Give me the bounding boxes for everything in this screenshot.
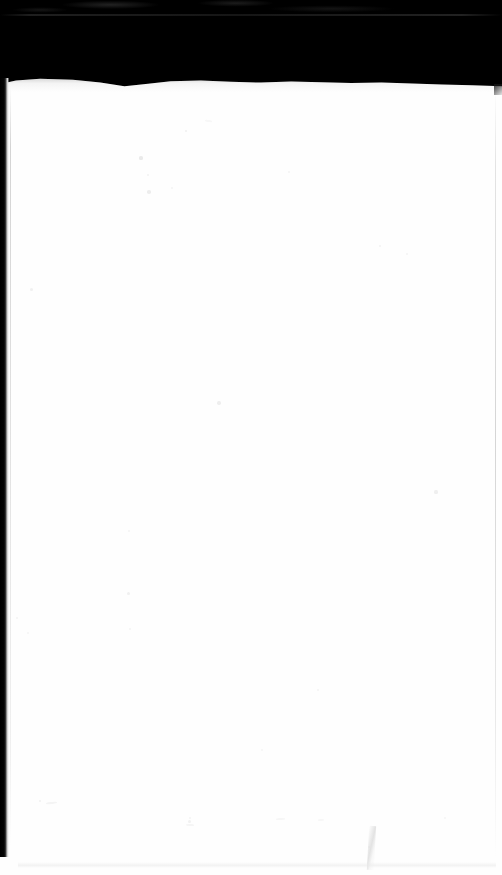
left-inner-rule [10, 86, 11, 846]
dust-speck [30, 288, 33, 291]
left-edge-shadow [0, 78, 9, 857]
bottom-scan-band [18, 862, 496, 868]
dust-speck [171, 187, 173, 189]
right-corner-notch [494, 84, 502, 95]
right-page-edge-line [495, 88, 496, 858]
backdrop-seam-line [0, 14, 502, 16]
dust-speck [188, 820, 191, 823]
dust-speck [127, 592, 130, 595]
dust-speck [147, 190, 151, 194]
dust-speck [27, 632, 29, 634]
dust-speck [434, 490, 437, 493]
scanned-page-canvas [0, 0, 502, 875]
dust-speck [217, 401, 220, 404]
dust-speck [406, 253, 408, 255]
dust-speck [139, 156, 142, 159]
paper-sheet [0, 78, 502, 875]
